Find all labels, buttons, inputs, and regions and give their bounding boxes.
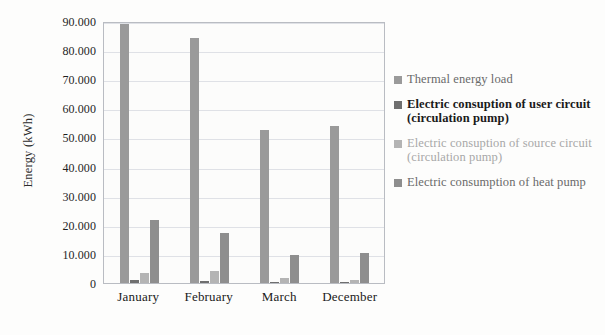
bar bbox=[140, 273, 149, 283]
legend-item[interactable]: Thermal energy load bbox=[394, 72, 599, 86]
y-axis-tick-label: 20.000 bbox=[62, 218, 96, 233]
legend-label: Electric consuption of user circuit (cir… bbox=[407, 97, 599, 125]
y-axis-tick-label: 10.000 bbox=[62, 247, 96, 262]
bar bbox=[290, 255, 299, 283]
legend-swatch-icon bbox=[394, 101, 402, 109]
bar bbox=[190, 38, 199, 283]
legend-swatch-icon bbox=[394, 179, 402, 187]
y-axis-title: Energy (kWh) bbox=[14, 0, 42, 300]
x-axis-tick-label-january: January bbox=[103, 289, 174, 305]
y-axis-tick-label: 30.000 bbox=[62, 189, 96, 204]
y-axis-tick-label: 50.000 bbox=[62, 131, 96, 146]
bar bbox=[330, 126, 339, 283]
bar bbox=[350, 280, 359, 283]
y-axis-tick-label: 60.000 bbox=[62, 102, 96, 117]
bar bbox=[150, 220, 159, 283]
chart-page: Energy (kWh) 010.00020.00030.00040.00050… bbox=[0, 0, 605, 335]
legend: Thermal energy loadElectric consuption o… bbox=[394, 72, 599, 200]
y-axis-tick-label: 70.000 bbox=[62, 73, 96, 88]
plot-area bbox=[103, 22, 385, 284]
x-axis-tick-labels: JanuaryFebruaryMarchDecember bbox=[103, 289, 385, 305]
y-axis-tick-label: 0 bbox=[90, 277, 96, 292]
y-axis-tick-label: 90.000 bbox=[62, 15, 96, 30]
legend-item[interactable]: Electric consuption of user circuit (cir… bbox=[394, 97, 599, 125]
legend-label: Thermal energy load bbox=[407, 72, 513, 86]
bar bbox=[340, 282, 349, 283]
bar-group-february bbox=[174, 23, 244, 283]
x-axis-tick-label-march: March bbox=[244, 289, 315, 305]
bar-groups bbox=[104, 23, 384, 283]
bar bbox=[360, 253, 369, 283]
y-axis-title-text: Energy (kWh) bbox=[21, 113, 36, 187]
legend-label: Electric consumption of heat pump bbox=[407, 175, 586, 189]
bar bbox=[280, 278, 289, 283]
y-axis-tick-label: 40.000 bbox=[62, 160, 96, 175]
legend-swatch-icon bbox=[394, 140, 402, 148]
x-axis-tick-label-december: December bbox=[315, 289, 386, 305]
legend-item[interactable]: Electric consumption of heat pump bbox=[394, 175, 599, 189]
bar bbox=[130, 280, 139, 283]
legend-label: Electric consuption of source circuit (c… bbox=[407, 136, 599, 164]
bar-group-december bbox=[314, 23, 384, 283]
y-axis-tick-labels: 010.00020.00030.00040.00050.00060.00070.… bbox=[44, 22, 100, 284]
x-axis-tick-label-february: February bbox=[174, 289, 245, 305]
bar bbox=[120, 24, 129, 283]
bar-group-january bbox=[104, 23, 174, 283]
legend-item[interactable]: Electric consuption of source circuit (c… bbox=[394, 136, 599, 164]
bar bbox=[260, 130, 269, 283]
bar-group-march bbox=[244, 23, 314, 283]
bar bbox=[200, 281, 209, 283]
bar bbox=[270, 282, 279, 283]
bar bbox=[210, 271, 219, 283]
y-axis-tick-label: 80.000 bbox=[62, 44, 96, 59]
bar bbox=[220, 233, 229, 283]
legend-swatch-icon bbox=[394, 76, 402, 84]
